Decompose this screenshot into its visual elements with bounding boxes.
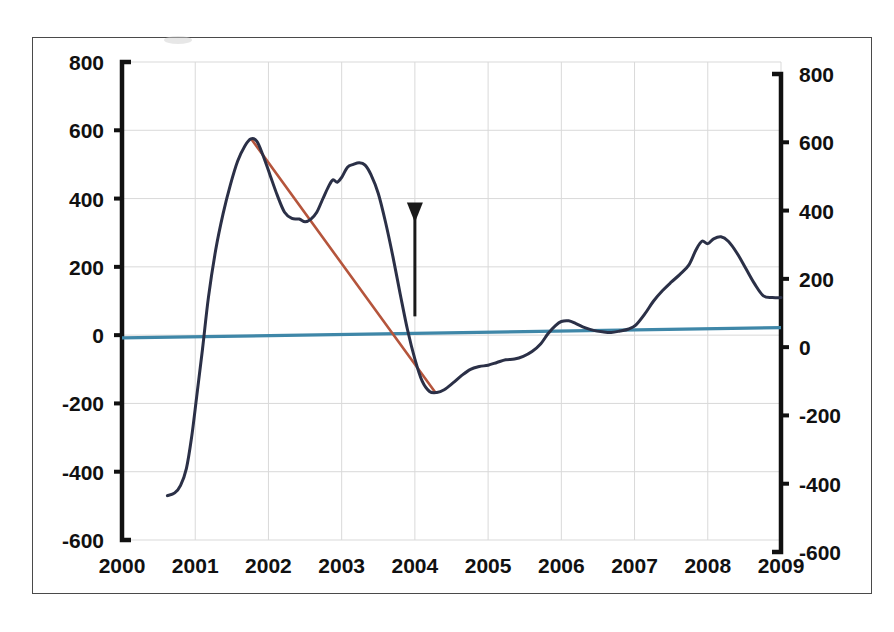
left-axis-tick-label: -200 <box>62 392 104 415</box>
right-axis-tick-label: -200 <box>799 404 841 427</box>
left-axis-tick-label: 400 <box>69 188 104 211</box>
x-axis-tick-label: 2004 <box>392 554 439 577</box>
scan-artifact <box>164 36 192 44</box>
right-axis-tick-label: 800 <box>799 63 834 86</box>
x-axis-tick-label: 2002 <box>245 554 292 577</box>
x-axis-tick-label: 2007 <box>611 554 658 577</box>
x-axis-tick-label: 2000 <box>99 554 146 577</box>
x-axis-tick-label: 2003 <box>318 554 365 577</box>
left-axis-tick-label: -600 <box>62 529 104 552</box>
left-axis-tick-label: 800 <box>69 51 104 74</box>
series-layer <box>122 139 781 496</box>
left-axis-tick-label: 200 <box>69 256 104 279</box>
x-axis: 2000200120022003200420052006200720082009 <box>99 554 805 577</box>
right-axis-tick-label: -400 <box>799 473 841 496</box>
x-axis-tick-label: 2009 <box>758 554 805 577</box>
left-axis-tick-label: 600 <box>69 119 104 142</box>
annotation-layer <box>407 202 423 316</box>
gridlines <box>122 62 781 540</box>
x-axis-tick-label: 2005 <box>465 554 512 577</box>
series-main-series <box>167 139 781 496</box>
x-axis-tick-label: 2008 <box>684 554 731 577</box>
line-chart: 8006004002000-200-400-600 8006004002000-… <box>0 0 894 632</box>
x-axis-tick-label: 2006 <box>538 554 585 577</box>
left-axis-tick-label: 0 <box>92 324 104 347</box>
right-axis-tick-label: 600 <box>799 131 834 154</box>
right-axis: 8006004002000-200-400-600 <box>772 63 841 564</box>
left-axis-spine <box>122 62 131 540</box>
right-axis-tick-label: 400 <box>799 200 834 223</box>
x-axis-tick-label: 2001 <box>172 554 219 577</box>
left-axis: 8006004002000-200-400-600 <box>62 51 131 552</box>
series-zero-reference-line <box>122 328 781 338</box>
right-axis-spine <box>772 74 781 552</box>
right-axis-tick-label: 200 <box>799 268 834 291</box>
chart-page: 8006004002000-200-400-600 8006004002000-… <box>0 0 894 632</box>
annotation-arrow-head <box>407 202 423 222</box>
right-axis-tick-label: 0 <box>799 336 811 359</box>
right-axis-tick-label: -600 <box>799 541 841 564</box>
left-axis-tick-label: -400 <box>62 461 104 484</box>
series-trend-line <box>252 140 436 393</box>
